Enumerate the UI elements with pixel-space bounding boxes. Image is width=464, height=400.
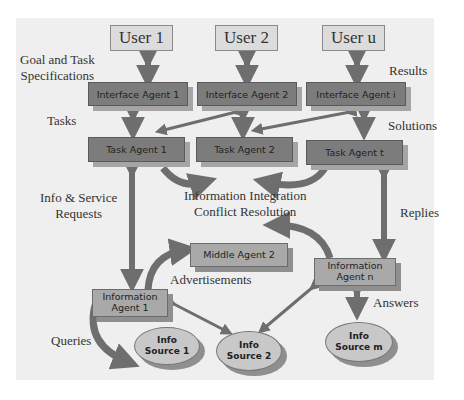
label-info-service-line1: Info & Service [40, 190, 117, 206]
label-advertisements: Advertisements [170, 272, 252, 288]
info-source-m: InfoSource m [325, 322, 393, 362]
label-answers: Answers [373, 295, 419, 311]
label-goal-line2: Specifications [20, 68, 95, 84]
label-solutions: Solutions [388, 118, 437, 134]
task-agent-1: Task Agent 1 [88, 137, 185, 162]
label-queries: Queries [51, 333, 91, 349]
interface-agent-i-label: Interface Agent i [316, 89, 395, 100]
info-source-1-line1: Info [157, 335, 177, 346]
task-agent-t-label: Task Agent t [325, 147, 383, 158]
user-u-box: User u [322, 25, 385, 51]
interface-agent-1: Interface Agent 1 [88, 82, 188, 106]
label-info-service: Info & ServiceRequests [40, 190, 117, 221]
label-goal-line1: Goal and Task [20, 52, 95, 68]
label-tasks: Tasks [47, 113, 76, 129]
user-2-label: User 2 [224, 28, 269, 48]
task-agent-2-label: Task Agent 2 [214, 144, 275, 155]
interface-agent-2-label: Interface Agent 2 [206, 89, 289, 100]
info-source-m-line1: Info [349, 331, 369, 342]
interface-agent-2: Interface Agent 2 [197, 82, 297, 106]
information-agent-1: InformationAgent 1 [92, 289, 168, 317]
task-agent-t: Task Agent t [306, 140, 403, 165]
label-replies: Replies [400, 205, 439, 221]
info-source-1-line2: Source 1 [145, 346, 189, 357]
label-integration-line1: Information Integration [184, 188, 306, 204]
info-source-m-line2: Source m [335, 342, 382, 353]
info-agent-1-line2: Agent 1 [111, 303, 148, 314]
info-agent-n-line2: Agent n [336, 272, 373, 283]
user-2-box: User 2 [215, 25, 278, 51]
interface-agent-i: Interface Agent i [306, 82, 406, 106]
info-source-1: InfoSource 1 [134, 327, 200, 365]
task-agent-1-label: Task Agent 1 [106, 144, 167, 155]
label-goal-spec: Goal and TaskSpecifications [20, 52, 95, 83]
info-source-2-line1: Info [239, 340, 259, 351]
info-source-2-line2: Source 2 [227, 351, 271, 362]
label-info-service-line2: Requests [40, 206, 117, 222]
information-agent-n: InformationAgent n [314, 258, 396, 286]
task-agent-2: Task Agent 2 [196, 137, 293, 162]
middle-agent-2: Middle Agent 2 [190, 243, 288, 267]
label-results: Results [389, 63, 427, 79]
label-integration-line2: Conflict Resolution [184, 204, 306, 220]
interface-agent-1-label: Interface Agent 1 [97, 89, 180, 100]
user-1-label: User 1 [119, 28, 164, 48]
user-1-box: User 1 [110, 25, 173, 51]
label-integration: Information IntegrationConflict Resoluti… [184, 188, 306, 219]
info-source-2: InfoSource 2 [216, 331, 282, 371]
user-u-label: User u [331, 28, 376, 48]
middle-agent-2-label: Middle Agent 2 [203, 250, 275, 261]
